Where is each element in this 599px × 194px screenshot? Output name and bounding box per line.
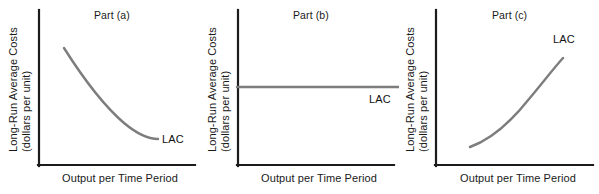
panel-a-y-axis-label-line1: Long-Run Average Costs	[7, 27, 20, 152]
panel-part-b: Part (b) Long-Run Average Costs (dollars…	[199, 0, 399, 194]
panel-b-y-axis-label: Long-Run Average Costs (dollars per unit…	[206, 27, 232, 152]
panel-b-x-axis-label: Output per Time Period	[249, 172, 389, 184]
panel-part-a: Part (a) Long-Run Average Costs (dollars…	[0, 0, 200, 194]
panel-a-y-axis-label: Long-Run Average Costs (dollars per unit…	[7, 27, 33, 152]
panel-part-c: Part (c) Long-Run Average Costs (dollars…	[398, 0, 598, 194]
panel-b-y-axis-label-line1: Long-Run Average Costs	[206, 27, 219, 152]
panel-c-x-axis-label: Output per Time Period	[448, 172, 588, 184]
panel-a-title: Part (a)	[94, 9, 130, 21]
panel-c-lac-label: LAC	[553, 33, 575, 45]
panel-c-y-axis-label-line2: (dollars per unit)	[417, 27, 430, 152]
lac-curves-figure: Part (a) Long-Run Average Costs (dollars…	[0, 0, 599, 194]
panel-a-lac-label: LAC	[162, 133, 184, 145]
panel-a-x-axis-label: Output per Time Period	[50, 172, 190, 184]
panel-b-lac-label: LAC	[369, 93, 391, 105]
panel-b-y-axis-label-line2: (dollars per unit)	[219, 27, 232, 152]
panel-b-title: Part (b)	[293, 9, 329, 21]
panel-a-y-axis-label-line2: (dollars per unit)	[20, 27, 33, 152]
lac-curve-a	[64, 48, 158, 139]
panel-c-y-axis-label-line1: Long-Run Average Costs	[404, 27, 417, 152]
panel-c-y-axis-label: Long-Run Average Costs (dollars per unit…	[404, 27, 430, 152]
lac-curve-c	[470, 58, 563, 147]
panel-c-title: Part (c)	[492, 9, 527, 21]
